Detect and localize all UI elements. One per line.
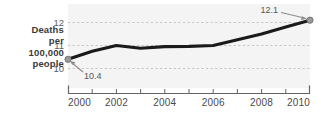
- end-value-annotation-label: 12.1: [260, 5, 278, 15]
- x-tick-label-2000: 2000: [68, 97, 91, 108]
- y-axis-title-line-3: 100,000: [4, 47, 64, 58]
- end-point-marker: [307, 17, 313, 23]
- x-tick-label-2002: 2002: [105, 97, 128, 108]
- x-tick-label-2010: 2010: [287, 97, 310, 108]
- x-tick-label-2008: 2008: [250, 97, 273, 108]
- y-axis-title-line-4: people: [4, 58, 64, 69]
- chart-container: Deaths per 100,000 people 12 11 10: [0, 0, 321, 118]
- y-axis-title-line-2: per: [4, 35, 64, 46]
- start-value-annotation-label: 10.4: [84, 71, 102, 81]
- x-axis-labels: 2000 2002 2004 2006 2008 2010: [68, 97, 310, 108]
- x-tick-label-2004: 2004: [153, 97, 176, 108]
- x-tick-label-2006: 2006: [202, 97, 225, 108]
- y-axis-title-line-1: Deaths: [4, 24, 64, 35]
- y-axis-title: Deaths per 100,000 people: [4, 24, 64, 70]
